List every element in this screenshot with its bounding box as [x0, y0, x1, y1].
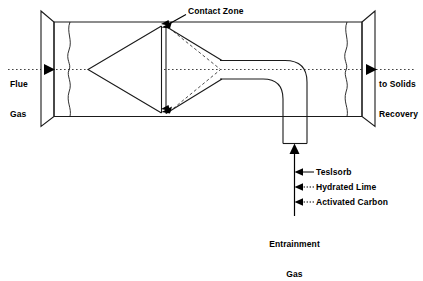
entrainment-gas-arrow [290, 144, 300, 217]
entrainment-gas-label: Entrainment Gas [244, 219, 345, 281]
flue-gas-label-line2: Gas [10, 109, 28, 119]
additive-label-activated-carbon: Activated Carbon [316, 197, 388, 207]
outlet-duct-elbow [220, 61, 307, 144]
additive-leader-teslsorb [295, 168, 315, 176]
entrainment-gas-label-line1: Entrainment [244, 239, 345, 249]
additive-leader-hydrated-lime [295, 183, 315, 191]
additive-label-hydrated-lime: Hydrated Lime [316, 182, 376, 192]
additive-label-teslsorb: Teslsorb [316, 167, 352, 177]
entrainment-gas-label-line2: Gas [244, 269, 345, 279]
solids-recovery-label-line1: to Solids [379, 79, 418, 89]
contact-zone-label: Contact Zone [188, 6, 244, 16]
solids-recovery-label: to Solids Recovery [379, 59, 418, 139]
flue-gas-label-line1: Flue [10, 79, 28, 89]
additive-leader-activated-carbon [295, 198, 315, 206]
inlet-cone [88, 26, 162, 113]
flue-gas-label: Flue Gas [10, 59, 28, 139]
solids-recovery-label-line2: Recovery [379, 109, 418, 119]
contact-zone-leader [161, 15, 186, 114]
